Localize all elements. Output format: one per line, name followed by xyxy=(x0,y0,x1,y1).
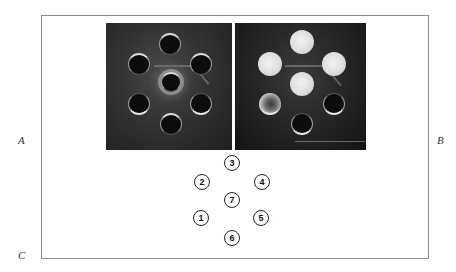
key-well-4: 4 xyxy=(254,174,270,190)
well-1 xyxy=(128,93,150,115)
panel-label-a: A xyxy=(18,134,25,146)
well-2 xyxy=(128,53,150,75)
well-2 xyxy=(258,52,282,76)
photo-panel-a xyxy=(106,23,232,150)
well-1 xyxy=(259,93,281,115)
well-7 xyxy=(161,72,181,92)
panel-label-b: B xyxy=(437,134,444,146)
channel-trace xyxy=(285,65,327,67)
well-5 xyxy=(323,93,345,115)
key-well-1: 1 xyxy=(193,210,209,226)
panel-label-c: C xyxy=(18,249,25,261)
photo-panel-b xyxy=(235,23,366,150)
well-3 xyxy=(290,30,314,54)
well-5 xyxy=(190,93,212,115)
key-well-7: 7 xyxy=(224,192,240,208)
key-well-2: 2 xyxy=(194,174,210,190)
well-6 xyxy=(160,113,182,135)
well-3 xyxy=(159,33,181,55)
key-well-3: 3 xyxy=(224,155,240,171)
well-6 xyxy=(291,113,313,135)
key-well-6: 6 xyxy=(224,230,240,246)
edge-trace xyxy=(295,141,365,142)
well-7 xyxy=(290,72,314,96)
key-well-5: 5 xyxy=(253,210,269,226)
well-4 xyxy=(190,53,212,75)
well-4 xyxy=(322,52,346,76)
